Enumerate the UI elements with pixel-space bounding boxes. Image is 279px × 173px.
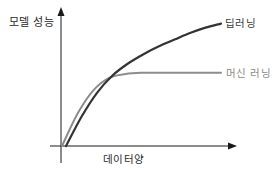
y-axis-label: 모델 성능	[9, 17, 54, 29]
deep-learning-line	[66, 24, 221, 146]
x-axis-arrow-icon	[228, 143, 237, 150]
legend-machine-learning: 머신 러닝	[226, 67, 271, 79]
x-axis-label: 데이터양	[103, 153, 144, 165]
legend-deep-learning: 딥러닝	[225, 17, 256, 29]
y-axis-arrow-icon	[58, 7, 65, 16]
chart-container: 모델 성능 데이터양 딥러닝 머신 러닝	[0, 0, 279, 173]
